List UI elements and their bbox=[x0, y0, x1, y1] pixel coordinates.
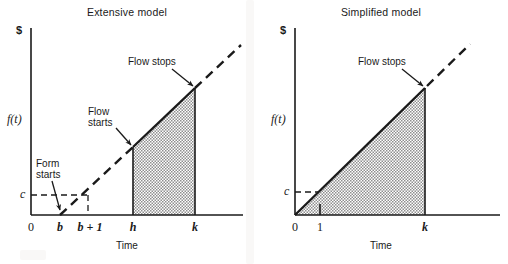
flow-line-dashed-upper bbox=[427, 44, 470, 86]
flow-starts-arrow bbox=[116, 128, 131, 145]
y-axis-label-ft: f(t) bbox=[271, 112, 286, 127]
shaded-area-h-to-k bbox=[133, 88, 195, 215]
panel-extensive-model: Extensive model bbox=[0, 0, 254, 264]
y-axis-dollar-symbol: $ bbox=[16, 24, 22, 36]
annotation-form-starts-line1: Form bbox=[36, 158, 60, 169]
y-axis-label-ft: f(t) bbox=[7, 112, 22, 127]
y-axis-dollar-symbol: $ bbox=[280, 24, 286, 36]
figure-container: Extensive model bbox=[0, 0, 508, 264]
x-tick-label-k: k bbox=[418, 220, 432, 235]
y-tick-label-c: c bbox=[20, 187, 25, 202]
flow-line-dashed-lower bbox=[60, 147, 133, 215]
flow-stops-arrow bbox=[402, 69, 423, 86]
annotation-flow-starts: Flow starts bbox=[88, 106, 112, 128]
annotation-flow-starts-line1: Flow bbox=[88, 106, 112, 117]
x-tick-label-h: h bbox=[126, 220, 140, 235]
x-axis-title-time: Time bbox=[254, 240, 508, 251]
annotation-flow-stops: Flow stops bbox=[358, 56, 406, 67]
y-tick-label-c: c bbox=[284, 184, 289, 199]
x-tick-label-0: 0 bbox=[24, 220, 38, 235]
annotation-flow-starts-line2: starts bbox=[88, 117, 112, 128]
x-tick-label-1: 1 bbox=[313, 220, 327, 235]
annotation-form-starts-line2: starts bbox=[36, 169, 60, 180]
x-tick-label-b-plus-1: b + 1 bbox=[70, 220, 110, 235]
annotation-form-starts: Form starts bbox=[36, 158, 60, 180]
annotation-flow-stops: Flow stops bbox=[128, 56, 176, 67]
annotation-flow-stops-line1: Flow stops bbox=[128, 56, 176, 67]
x-tick-label-b: b bbox=[53, 220, 67, 235]
x-tick-label-k: k bbox=[188, 220, 202, 235]
x-axis-title-time: Time bbox=[0, 240, 254, 251]
annotation-flow-stops-line1: Flow stops bbox=[358, 56, 406, 67]
panel-simplified-model: Simplified model bbox=[254, 0, 508, 264]
flow-stops-arrow bbox=[172, 69, 193, 86]
flow-line-dashed-upper bbox=[195, 45, 241, 88]
x-tick-label-0: 0 bbox=[288, 220, 302, 235]
